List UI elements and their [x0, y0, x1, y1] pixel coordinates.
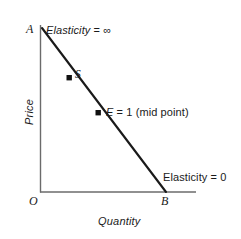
y-axis-title: Price	[24, 99, 35, 125]
annotation-bottom-term: Elasticity	[163, 171, 207, 183]
annotation-elasticity-zero: Elasticity = 0	[163, 172, 226, 183]
point-marker-e	[96, 110, 101, 115]
origin-label-o: O	[29, 195, 38, 207]
point-label-b: B	[161, 195, 168, 207]
annotation-elasticity-infinite: Elasticity = ∞	[46, 25, 111, 36]
annotation-bottom-value: 0	[220, 171, 226, 183]
annotation-top-term: Elasticity	[46, 24, 90, 36]
annotation-mid-note: (mid point)	[136, 106, 189, 118]
annotation-elasticity-unity: E = 1 (mid point)	[106, 107, 189, 118]
point-label-a: A	[26, 23, 33, 35]
point-marker-s	[67, 75, 72, 80]
annotation-top-value: ∞	[103, 24, 111, 36]
elasticity-diagram: A Elasticity = ∞ S E = 1 (mid point) Ela…	[0, 0, 241, 239]
x-axis-title: Quantity	[98, 216, 141, 227]
point-label-s: S	[75, 69, 81, 81]
